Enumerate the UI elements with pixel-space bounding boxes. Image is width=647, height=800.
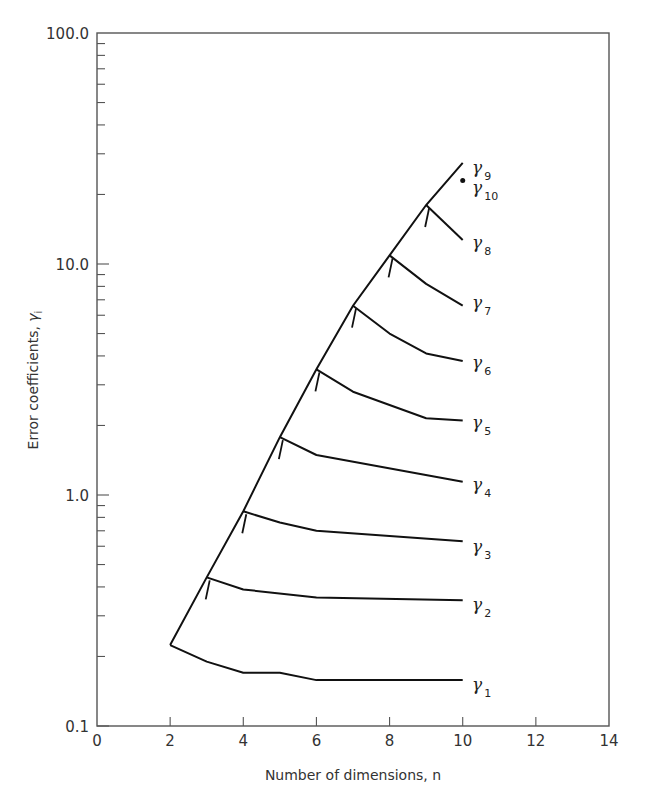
x-axis-label: Number of dimensions, n xyxy=(265,767,441,783)
x-tick-label: 6 xyxy=(312,732,322,750)
y-axis-label: Error coefficients, γi xyxy=(25,311,44,450)
series-label-gamma-8: γ8 xyxy=(472,232,491,258)
x-tick-label: 10 xyxy=(453,732,472,750)
series-label-gamma-6: γ6 xyxy=(472,352,491,378)
x-tick-label: 8 xyxy=(385,732,395,750)
series-label-gamma-4: γ4 xyxy=(472,474,491,500)
y-tick-label: 1.0 xyxy=(65,487,89,505)
series-label-gamma-3: γ3 xyxy=(472,536,491,562)
branch-tick xyxy=(315,372,319,391)
x-axis: 02468101214 xyxy=(92,717,618,750)
series-line-gamma-2 xyxy=(207,577,463,600)
series-curves xyxy=(170,163,465,680)
branch-tick xyxy=(279,440,283,459)
series-label-gamma-5: γ5 xyxy=(472,412,491,438)
series-line-gamma-8 xyxy=(426,205,463,240)
series-line-gamma-7 xyxy=(390,255,463,305)
x-tick-label: 2 xyxy=(165,732,175,750)
x-tick-label: 4 xyxy=(239,732,249,750)
series-line-gamma-1 xyxy=(170,645,463,680)
branch-tick xyxy=(389,258,393,277)
series-line-gamma-5 xyxy=(316,369,462,420)
branch-tick xyxy=(352,309,356,328)
envelope-line xyxy=(170,163,463,645)
y-tick-label: 10.0 xyxy=(56,256,89,274)
y-tick-label: 0.1 xyxy=(65,718,89,736)
x-tick-label: 14 xyxy=(599,732,618,750)
series-label-gamma-2: γ2 xyxy=(472,594,491,620)
plot-frame xyxy=(97,33,609,726)
series-label-gamma-7: γ7 xyxy=(472,292,491,318)
x-tick-label: 12 xyxy=(526,732,545,750)
x-tick-label: 0 xyxy=(92,732,102,750)
series-line-gamma-3 xyxy=(243,511,462,541)
series-line-gamma-4 xyxy=(280,437,463,482)
y-axis: 0.11.010.0100.0 xyxy=(46,25,109,736)
branch-tick xyxy=(425,208,429,227)
y-tick-label: 100.0 xyxy=(46,25,89,43)
series-labels: γ1γ2γ3γ4γ5γ6γ7γ8γ9γ10 xyxy=(472,157,498,700)
branch-tick xyxy=(242,514,246,533)
branch-tick xyxy=(206,580,210,599)
chart: 0.11.010.0100.0 02468101214 γ1γ2γ3γ4γ5γ6… xyxy=(0,0,647,800)
series-line-gamma-6 xyxy=(353,306,463,361)
series-dot-gamma-10 xyxy=(460,178,465,183)
plot-border xyxy=(97,33,609,726)
series-label-gamma-1: γ1 xyxy=(472,674,491,700)
